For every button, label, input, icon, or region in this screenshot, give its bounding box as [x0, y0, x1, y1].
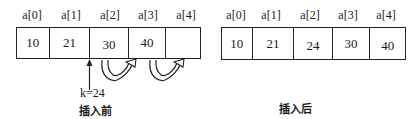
- array-cell: 21: [253, 28, 295, 59]
- index-label: a[0]: [216, 8, 256, 23]
- caption-before: 插入前: [79, 102, 112, 118]
- array-cell: 40: [370, 28, 405, 59]
- array-after: 10 21 24 30 40: [221, 27, 406, 60]
- array-cell: 10: [222, 28, 253, 59]
- array-cell: 24: [294, 28, 333, 59]
- array-cell: 30: [333, 28, 371, 59]
- index-label: a[3]: [328, 8, 368, 23]
- index-label: a[1]: [251, 8, 291, 23]
- insert-key-label: k=24: [80, 86, 105, 101]
- index-label: a[2]: [290, 8, 330, 23]
- index-label: a[4]: [366, 8, 406, 23]
- caption-after: 插入后: [279, 100, 312, 116]
